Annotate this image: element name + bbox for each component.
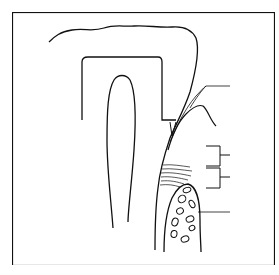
gingiva-inner-line: [170, 86, 206, 142]
gingiva-leader-line: [190, 86, 230, 108]
tooth-diagram: [12, 12, 275, 265]
pulp-chamber: [82, 57, 176, 120]
root-canal: [107, 76, 135, 229]
crown-outline: [49, 26, 198, 250]
diagram-frame: [12, 12, 275, 265]
bracket-lower: [206, 168, 230, 188]
border-frame: [13, 13, 275, 266]
bracket-upper: [206, 146, 230, 166]
